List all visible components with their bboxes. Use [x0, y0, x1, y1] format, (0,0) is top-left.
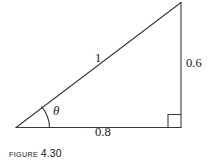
theta-arc-icon [41, 106, 49, 127]
figure-caption-number: 4.30 [41, 147, 62, 159]
right-angle-square-icon [168, 115, 181, 128]
opposite-side-label: 0.6 [186, 57, 202, 70]
figure-container: 1 0.6 0.8 θ FIGURE4.30 [0, 0, 215, 162]
figure-caption: FIGURE4.30 [9, 143, 62, 161]
hypotenuse-line [16, 3, 181, 128]
hypotenuse-label: 1 [95, 52, 101, 65]
theta-angle-label: θ [53, 104, 59, 117]
figure-caption-word: FIGURE [9, 150, 38, 159]
adjacent-side-label: 0.8 [95, 126, 111, 139]
